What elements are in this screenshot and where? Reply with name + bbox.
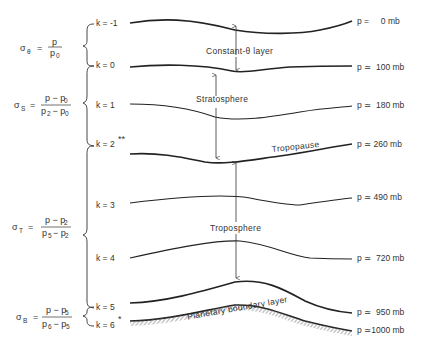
pressure-label-0: p = 0 mb <box>357 16 400 26</box>
svg-text:5: 5 <box>65 309 69 316</box>
sigma-theta-def: σ θ = p p 0 <box>20 37 62 59</box>
pressure-label-490: p ≃ 490 mb <box>357 192 402 202</box>
brace-pbl <box>83 307 94 326</box>
brace-tropo <box>83 146 94 308</box>
svg-text:σ: σ <box>20 43 26 53</box>
sigma-t-def: σ T = p − p 2 p 5 − p 2 <box>12 215 71 239</box>
svg-text:0: 0 <box>56 52 60 59</box>
level-k0 <box>130 65 352 72</box>
svg-text:5: 5 <box>48 232 52 239</box>
svg-text:S: S <box>21 105 26 112</box>
svg-text:=: = <box>28 222 33 232</box>
k-label-3: k = 3 <box>96 200 115 210</box>
label-constant-theta-layer: Constant-θ layer <box>206 46 273 56</box>
k-label-0: k = 0 <box>96 60 115 70</box>
svg-text:p: p <box>52 37 57 47</box>
svg-text:σ: σ <box>16 312 22 322</box>
k-label-4: k = 4 <box>96 253 115 263</box>
svg-text:− p: − p <box>50 106 65 116</box>
svg-text:− p: − p <box>51 319 66 329</box>
pressure-label-1000: p ≃1000 mb <box>357 325 405 335</box>
level-k-minus1 <box>130 20 352 34</box>
svg-text:p − p: p − p <box>45 93 65 103</box>
brace-theta <box>83 24 94 66</box>
svg-text:T: T <box>19 227 23 234</box>
sigma-layer-diagram: Constant-θ layer Stratosphere Tropopause… <box>0 0 426 348</box>
level-k4 <box>130 241 352 259</box>
label-troposphere: Troposphere <box>210 223 261 233</box>
level-curves <box>130 20 352 331</box>
svg-text:− p: − p <box>53 228 66 238</box>
svg-text:p: p <box>50 48 55 58</box>
svg-text:θ: θ <box>27 48 31 55</box>
pressure-label-720: p ≃ 720 mb <box>357 253 405 263</box>
svg-text:p: p <box>42 319 47 329</box>
brace-strato <box>83 66 94 146</box>
k-label-2: k = 2 <box>96 139 115 149</box>
svg-text:B: B <box>23 317 27 324</box>
braces <box>83 24 94 326</box>
svg-text:σ: σ <box>12 222 18 232</box>
svg-text:5: 5 <box>66 323 70 330</box>
pressure-label-100: p ≃ 100 mb <box>357 62 405 72</box>
k-label-1: k = 1 <box>96 100 115 110</box>
svg-text:p − p: p − p <box>45 215 65 225</box>
label-planetary-boundary-layer: Planetary boundary layer <box>186 294 288 322</box>
sigma-s-def: σ S = p − p 0 p 2 − p 0 <box>14 93 71 117</box>
sigma-b-def: σ B = p − p 5 p 6 − p 5 <box>16 305 72 330</box>
svg-text:0: 0 <box>64 97 68 104</box>
svg-text:σ: σ <box>14 100 20 110</box>
svg-text:2: 2 <box>64 219 68 226</box>
pressure-label-260: p ≃ 260 mb <box>357 139 402 149</box>
k-label-minus1: k = -1 <box>96 18 118 28</box>
svg-text:2: 2 <box>65 232 69 239</box>
k-label-6: k = 6 <box>96 320 115 330</box>
k-label-2-mark: ** <box>118 134 126 144</box>
pressure-labels: p = 0 mb p ≃ 100 mb p ≃ 180 mb p ≃ 260 m… <box>357 16 405 335</box>
svg-text:=: = <box>30 100 35 110</box>
level-k1 <box>130 104 352 119</box>
k-label-6-mark: * <box>118 314 122 324</box>
label-stratosphere: Stratosphere <box>196 94 248 104</box>
svg-text:p: p <box>41 106 46 116</box>
level-k3 <box>130 196 352 205</box>
k-label-5: k = 5 <box>96 302 115 312</box>
pressure-label-180: p ≃ 180 mb <box>357 100 405 110</box>
svg-text:p − p: p − p <box>46 305 66 315</box>
svg-text:=: = <box>37 43 42 53</box>
pressure-label-950: p ≃ 950 mb <box>357 307 405 317</box>
k-labels: k = -1 k = 0 k = 1 k = 2 ** k = 3 k = 4 … <box>96 18 126 330</box>
label-tropopause: Tropopause <box>271 139 320 154</box>
layer-arrows <box>216 26 236 278</box>
svg-text:p: p <box>42 228 47 238</box>
svg-text:=: = <box>33 312 38 322</box>
svg-text:0: 0 <box>65 110 69 117</box>
